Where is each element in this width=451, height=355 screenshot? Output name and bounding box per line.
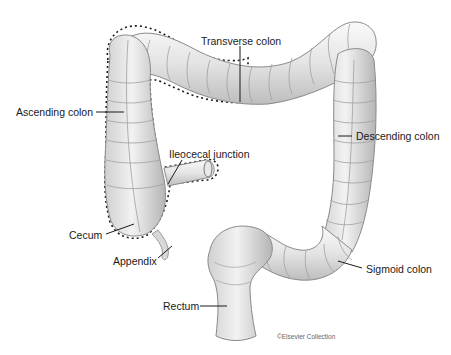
rectum	[208, 226, 272, 340]
label-cecum: Cecum	[69, 229, 102, 241]
label-ileocecal-junction: Ileocecal junction	[169, 148, 250, 160]
copyright-credit: ©Elsevier Collection	[277, 333, 335, 340]
colon-illustration	[0, 0, 451, 355]
label-sigmoid-colon: Sigmoid colon	[366, 263, 432, 275]
label-transverse-colon: Transverse colon	[201, 35, 281, 47]
label-rectum: Rectum	[163, 300, 199, 312]
label-ascending-colon: Ascending colon	[16, 106, 93, 118]
label-descending-colon: Descending colon	[356, 130, 439, 142]
label-appendix: Appendix	[113, 255, 157, 267]
